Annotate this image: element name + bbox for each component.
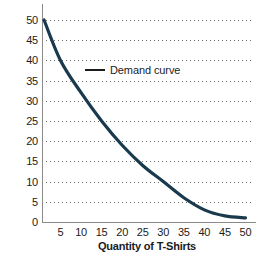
y-tick-label: 50 — [4, 14, 38, 26]
y-tick-label: 45 — [4, 34, 38, 46]
x-axis-title: Quantity of T-Shirts — [42, 240, 252, 252]
y-tick-label: 25 — [4, 115, 38, 127]
y-tick-label: 30 — [4, 95, 38, 107]
demand-curve-line — [42, 4, 256, 223]
y-tick-label: 15 — [4, 155, 38, 167]
demand-curve-path — [44, 20, 245, 218]
y-tick-label: 0 — [4, 216, 38, 228]
y-tick-label: 20 — [4, 135, 38, 147]
x-tick-label: 50 — [234, 226, 258, 238]
y-tick-label: 5 — [4, 196, 38, 208]
y-axis-tick-labels: 50454035302520151050 — [0, 4, 38, 223]
demand-curve-chart: Price ($) 50454035302520151050 Demand cu… — [0, 0, 267, 259]
demand-curve-annotation: Demand curve — [85, 64, 180, 76]
y-tick-label: 40 — [4, 54, 38, 66]
annotation-label: Demand curve — [110, 64, 180, 76]
y-tick-label: 35 — [4, 75, 38, 87]
annotation-leader-line — [85, 69, 105, 71]
y-tick-label: 10 — [4, 176, 38, 188]
